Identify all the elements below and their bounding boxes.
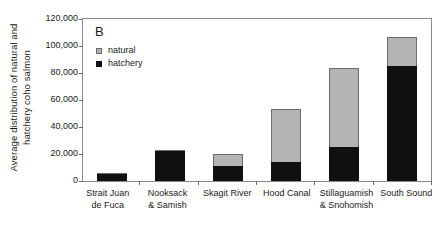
legend-label: hatchery <box>108 59 143 68</box>
bar-segment-hatchery <box>155 151 185 181</box>
stacked-bar <box>329 68 359 181</box>
bar-series-group <box>83 19 431 181</box>
bar-slot <box>141 19 199 181</box>
bar-segment-natural <box>271 109 301 162</box>
x-tick-slot <box>315 181 373 185</box>
legend-item: natural <box>96 46 143 55</box>
bar-segment-hatchery <box>329 147 359 181</box>
y-axis-tick-label: 20,000 <box>50 149 78 158</box>
x-axis-category-label-line: South Sound <box>377 188 435 200</box>
legend-swatch-natural <box>96 48 102 54</box>
y-axis-tick-mark <box>79 73 83 74</box>
x-tick-slot <box>199 181 257 185</box>
x-axis-category-label: Hood Canal <box>257 188 317 211</box>
y-axis-tick-label: 0 <box>73 176 78 185</box>
figure-panel-b: Average distribution of natural and hatc… <box>0 0 440 230</box>
x-axis-category-label: Stillaguamish& Snohomish <box>317 188 377 211</box>
y-axis-title-line1: Average distribution of natural and <box>8 23 21 171</box>
x-axis-tick-mark <box>431 181 432 185</box>
y-axis-tick-labels: 120,000100,00080,00060,00040,00020,0000 <box>34 11 82 187</box>
plot-area: B naturalhatchery <box>82 18 432 182</box>
x-axis-category-label: South Sound <box>376 188 436 211</box>
x-axis-category-label-line: Stillaguamish <box>318 188 376 200</box>
x-axis-category-label: Nooksack& Samish <box>138 188 198 211</box>
y-axis-tick-mark <box>79 19 83 20</box>
bar-segment-hatchery <box>271 162 301 181</box>
bar-segment-hatchery <box>97 174 127 181</box>
y-axis-tick-mark <box>79 154 83 155</box>
x-axis-category-labels: Strait Juande FucaNooksack& SamishSkagit… <box>78 188 436 211</box>
stacked-bar <box>387 37 417 181</box>
bar-slot <box>315 19 373 181</box>
x-tick-slot <box>82 181 140 185</box>
y-axis-tick-mark <box>79 100 83 101</box>
y-axis-tick-label: 120,000 <box>45 14 78 23</box>
x-tick-slot <box>374 181 432 185</box>
bar-segment-hatchery <box>213 166 243 181</box>
legend-label: natural <box>108 46 136 55</box>
x-axis-category-label-line: Hood Canal <box>258 188 316 200</box>
bar-slot <box>199 19 257 181</box>
y-axis-tick-label: 40,000 <box>50 122 78 131</box>
stacked-bar <box>155 150 185 181</box>
x-axis-tick-marks <box>82 181 432 185</box>
bar-segment-hatchery <box>387 66 417 181</box>
stacked-bar <box>271 109 301 181</box>
x-axis-category-label-line: Nooksack <box>139 188 197 200</box>
bar-slot <box>373 19 431 181</box>
bar-slot <box>257 19 315 181</box>
x-tick-slot <box>140 181 198 185</box>
bar-segment-natural <box>329 68 359 148</box>
x-axis-category-label-line: Skagit River <box>198 188 256 200</box>
x-axis-category-label: Strait Juande Fuca <box>78 188 138 211</box>
x-tick-slot <box>257 181 315 185</box>
bar-slot <box>83 19 141 181</box>
bar-segment-natural <box>387 37 417 67</box>
bar-segment-natural <box>213 154 243 166</box>
legend: naturalhatchery <box>96 46 143 72</box>
x-axis-category-label-line: de Fuca <box>79 200 137 212</box>
stacked-bar <box>213 154 243 181</box>
y-axis-title-line2: hatchery coho salmon <box>20 23 33 171</box>
y-axis-tick-mark <box>79 127 83 128</box>
x-axis-category-label: Skagit River <box>197 188 257 211</box>
y-axis-tick-mark <box>79 46 83 47</box>
panel-letter: B <box>95 25 104 38</box>
stacked-bar <box>97 173 127 181</box>
x-axis-category-label-line: & Snohomish <box>318 200 376 212</box>
legend-swatch-hatchery <box>96 61 102 67</box>
x-axis-category-label-line: & Samish <box>139 200 197 212</box>
legend-item: hatchery <box>96 59 143 68</box>
y-axis-tick-label: 60,000 <box>50 95 78 104</box>
y-axis-tick-label: 80,000 <box>50 68 78 77</box>
y-axis-tick-label: 100,000 <box>45 41 78 50</box>
x-axis-category-label-line: Strait Juan <box>79 188 137 200</box>
